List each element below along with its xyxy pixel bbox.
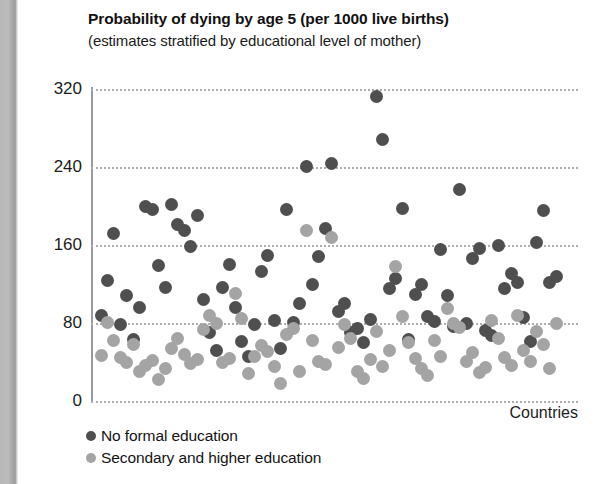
data-point bbox=[178, 224, 191, 237]
data-point bbox=[191, 209, 204, 222]
data-point bbox=[293, 297, 306, 310]
data-point bbox=[357, 336, 370, 349]
y-tick-label-0: 0 bbox=[36, 391, 82, 411]
y-tick-label-160: 160 bbox=[36, 235, 82, 255]
data-point bbox=[530, 236, 543, 249]
data-point bbox=[261, 345, 274, 358]
data-point bbox=[511, 309, 524, 322]
data-point bbox=[389, 260, 402, 273]
data-point bbox=[428, 315, 441, 328]
data-point bbox=[120, 356, 133, 369]
data-point bbox=[114, 318, 127, 331]
data-point bbox=[268, 314, 281, 327]
data-point bbox=[197, 293, 210, 306]
data-point bbox=[146, 354, 159, 367]
data-point bbox=[344, 332, 357, 345]
figure-container: Probability of dying by age 5 (per 1000 … bbox=[18, 0, 604, 484]
data-point bbox=[332, 341, 345, 354]
data-point bbox=[101, 316, 114, 329]
gridline-160 bbox=[91, 245, 578, 247]
data-point bbox=[306, 278, 319, 291]
data-point bbox=[434, 350, 447, 363]
data-point bbox=[402, 336, 415, 349]
chart-subtitle: (estimates stratified by educational lev… bbox=[88, 32, 421, 49]
y-tick-label-240: 240 bbox=[36, 157, 82, 177]
data-point bbox=[466, 346, 479, 359]
y-axis-tick-labels: 080160240320 bbox=[30, 89, 82, 401]
data-point bbox=[280, 203, 293, 216]
data-point bbox=[101, 274, 114, 287]
chart-legend: No formal educationSecondary and higher … bbox=[86, 425, 321, 469]
data-point bbox=[441, 302, 454, 315]
data-point bbox=[479, 361, 492, 374]
data-point bbox=[152, 373, 165, 386]
data-point bbox=[107, 334, 120, 347]
data-point bbox=[530, 325, 543, 338]
data-point bbox=[543, 362, 556, 375]
data-point bbox=[146, 203, 159, 216]
data-point bbox=[152, 259, 165, 272]
data-point bbox=[216, 281, 229, 294]
data-point bbox=[498, 282, 511, 295]
data-point bbox=[492, 332, 505, 345]
data-point bbox=[492, 239, 505, 252]
y-tick-label-320: 320 bbox=[36, 79, 82, 99]
data-point bbox=[127, 338, 140, 351]
data-point bbox=[537, 204, 550, 217]
data-point bbox=[389, 272, 402, 285]
data-point bbox=[171, 332, 184, 345]
scatter-plot-area bbox=[91, 89, 578, 401]
data-point bbox=[133, 301, 146, 314]
data-point bbox=[312, 250, 325, 263]
data-point bbox=[274, 377, 287, 390]
data-point bbox=[287, 322, 300, 335]
data-point bbox=[473, 242, 486, 255]
data-point bbox=[453, 321, 466, 334]
data-point bbox=[325, 231, 338, 244]
data-point bbox=[550, 317, 563, 330]
data-point bbox=[376, 360, 389, 373]
legend-label: Secondary and higher education bbox=[101, 449, 321, 467]
data-point bbox=[338, 297, 351, 310]
data-point bbox=[248, 318, 261, 331]
data-point bbox=[364, 353, 377, 366]
data-point bbox=[210, 317, 223, 330]
chart-title: Probability of dying by age 5 (per 1000 … bbox=[88, 10, 449, 28]
legend-item[interactable]: Secondary and higher education bbox=[86, 447, 321, 469]
data-point bbox=[223, 258, 236, 271]
data-point bbox=[261, 249, 274, 262]
data-point bbox=[210, 344, 223, 357]
data-point bbox=[396, 310, 409, 323]
data-point bbox=[319, 358, 332, 371]
data-point bbox=[300, 224, 313, 237]
data-point bbox=[268, 360, 281, 373]
data-point bbox=[421, 369, 434, 382]
data-point bbox=[383, 344, 396, 357]
data-point bbox=[306, 334, 319, 347]
data-point bbox=[255, 265, 268, 278]
data-point bbox=[524, 355, 537, 368]
legend-marker-icon bbox=[86, 453, 96, 463]
data-point bbox=[300, 160, 313, 173]
data-point bbox=[325, 157, 338, 170]
data-point bbox=[511, 276, 524, 289]
legend-label: No formal education bbox=[101, 427, 238, 445]
data-point bbox=[370, 90, 383, 103]
y-tick-label-80: 80 bbox=[36, 313, 82, 333]
data-point bbox=[364, 313, 377, 326]
data-point bbox=[415, 278, 428, 291]
data-point bbox=[370, 325, 383, 338]
data-point bbox=[396, 202, 409, 215]
data-point bbox=[159, 281, 172, 294]
data-point bbox=[293, 365, 306, 378]
data-point bbox=[191, 353, 204, 366]
gridline-80 bbox=[91, 323, 578, 325]
data-point bbox=[434, 243, 447, 256]
data-point bbox=[357, 372, 370, 385]
x-axis-label: Countries bbox=[398, 404, 578, 422]
data-point bbox=[107, 227, 120, 240]
data-point bbox=[120, 289, 133, 302]
legend-item[interactable]: No formal education bbox=[86, 425, 321, 447]
data-point bbox=[159, 362, 172, 375]
data-point bbox=[550, 270, 563, 283]
